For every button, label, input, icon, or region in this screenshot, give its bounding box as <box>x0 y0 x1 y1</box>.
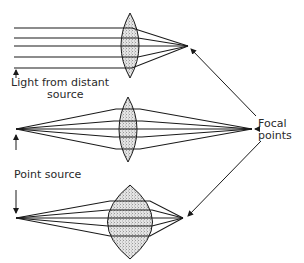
label-source: source <box>47 89 84 101</box>
focal-arrow-top <box>191 49 256 116</box>
diverging-rays-bottom <box>16 201 183 236</box>
focal-arrow-bottom <box>188 141 261 216</box>
lens-diagram: Light from distant source Point source F… <box>0 0 304 263</box>
label-point-source: Point source <box>14 169 81 181</box>
panel-distant-source <box>14 13 188 78</box>
lens-bottom <box>108 185 153 259</box>
panel-point-source-near <box>16 97 252 162</box>
parallel-rays <box>14 28 188 68</box>
panel-point-source-far <box>16 185 183 259</box>
label-points: points <box>258 130 292 142</box>
